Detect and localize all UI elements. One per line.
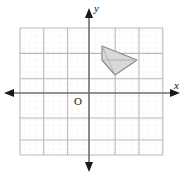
coordinate-grid-figure: y x O	[0, 0, 185, 175]
y-axis-down-arrow-icon	[85, 162, 93, 172]
coordinate-plane-svg: y x O	[0, 0, 185, 175]
y-axis-up-arrow-icon	[85, 8, 93, 18]
x-axis-label: x	[173, 79, 179, 91]
origin-label: O	[74, 95, 82, 107]
x-axis-left-arrow-icon	[4, 89, 14, 97]
y-axis-label: y	[93, 2, 99, 14]
minor-gridlines	[20, 28, 163, 155]
